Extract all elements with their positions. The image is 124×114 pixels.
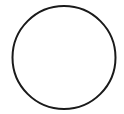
circle-drawing [0,0,124,114]
circle-shape [13,6,116,109]
canvas [0,0,124,114]
